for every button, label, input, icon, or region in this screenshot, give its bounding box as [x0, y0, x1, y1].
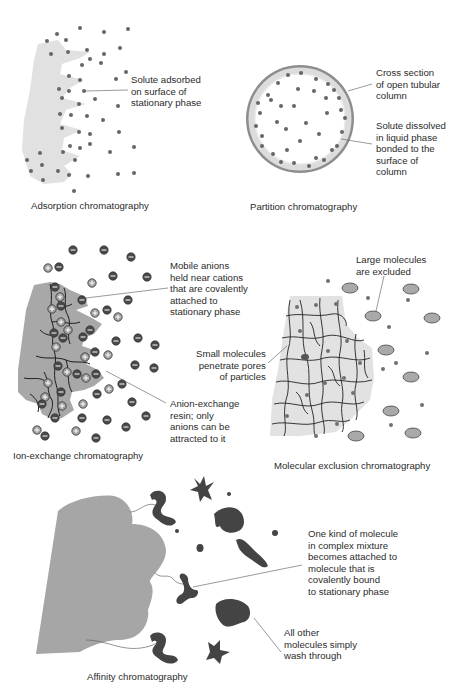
leader-line — [193, 565, 302, 587]
molecular-exclusion-caption: Molecular exclusion chromatography — [274, 460, 430, 471]
dot-molecule — [175, 529, 179, 533]
small-molecule-in-pore — [301, 354, 309, 360]
leader-line — [106, 371, 166, 403]
ion-exchange-panel — [18, 246, 168, 442]
partition-caption: Partition chromatography — [250, 201, 357, 212]
blob-molecule — [214, 507, 244, 533]
ligand-bound-molecule — [150, 491, 176, 526]
stationary-phase-blob — [36, 496, 166, 654]
ligand-free-molecule — [150, 633, 178, 664]
leader-line — [348, 84, 372, 91]
small-star-molecule — [206, 640, 230, 664]
partition-annotation-solute: Solute dissolved in liquid phase bonded … — [376, 120, 446, 178]
target-molecule — [176, 574, 198, 605]
affinity-caption: Affinity chromatography — [87, 671, 188, 682]
star-molecule — [190, 476, 214, 502]
ion-exchange-caption: Ion-exchange chromatography — [13, 450, 143, 461]
affinity-molecules — [150, 476, 278, 664]
large-blob-molecule — [215, 599, 250, 627]
affinity-annotation-wash: All other molecules simply wash through — [284, 627, 357, 662]
affinity-annotation-attached: One kind of molecule in complex mixture … — [308, 528, 398, 597]
worm-molecule — [236, 539, 268, 567]
exclusion-annotation-large: Large molecules are excluded — [356, 254, 426, 277]
ion-exchange-annotation-anions: Mobile anions held near cations that are… — [170, 260, 248, 318]
stationary-phase-surface — [22, 40, 90, 184]
molecular-exclusion-panel — [268, 276, 440, 441]
adsorption-caption: Adsorption chromatography — [31, 200, 149, 211]
partition-panel — [246, 65, 372, 173]
partition-annotation-column: Cross section of open tubular column — [376, 67, 440, 102]
dot-molecule — [227, 492, 231, 496]
leader-line — [85, 90, 128, 91]
adsorption-panel — [22, 26, 136, 193]
adsorption-annotation: Solute adsorbed on surface of stationary… — [131, 74, 201, 109]
leader-line — [376, 276, 384, 311]
ion-exchange-annotation-resin: Anion-exchange resin; only anions can be… — [170, 398, 239, 444]
dot-molecule — [197, 544, 204, 552]
exclusion-annotation-small: Small molecules penetrate pores of parti… — [196, 348, 266, 383]
leader-line — [254, 618, 281, 652]
dot-molecule — [272, 530, 278, 536]
affinity-panel — [36, 476, 302, 664]
